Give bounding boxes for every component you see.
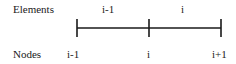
node-label-i-minus-1: i-1 [67,48,79,60]
node-label-i-plus-1: i+1 [212,48,227,60]
nodes-row-label: Nodes [13,48,41,60]
node-label-i: i [147,48,150,60]
